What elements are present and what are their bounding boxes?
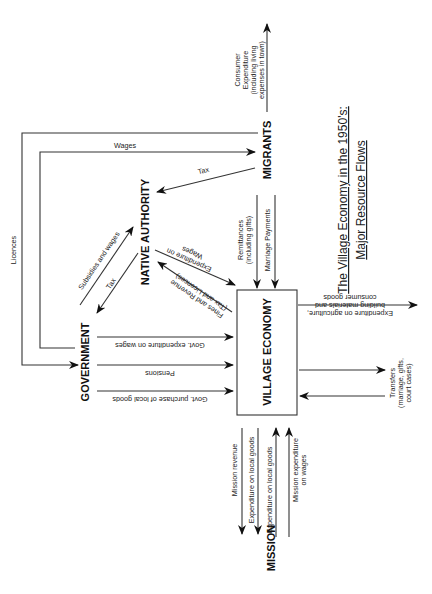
label-gov-purchase-goods: Govt. purchase of local goods [112, 395, 207, 404]
svg-text:on wages: on wages [299, 454, 308, 485]
resource-flow-diagram: The Village Economy in the 1950's: Major… [0, 0, 432, 594]
label-licences: Licences [9, 235, 18, 264]
label-tax-migrants: Tax [197, 165, 210, 177]
title-line-1: The Village Economy in the 1950's: [336, 106, 350, 294]
label-consumer-expenditure: Consumer Expenditure (including living e… [233, 41, 266, 99]
label-marriage-payments: Marriage Payments [263, 208, 272, 271]
svg-text:expenses in town): expenses in town) [257, 41, 266, 99]
label-gov-expenditure-wages: Govt. expenditure on wages [115, 341, 205, 350]
label-transfers: Transfers (marriage, gifts, court cases) [388, 358, 413, 408]
node-government: GOVERNMENT [79, 322, 91, 401]
label-expenditure-agriculture: Expenditure on agriculture, building mat… [307, 293, 393, 318]
node-migrants: MIGRANTS [261, 121, 273, 180]
label-na-expenditure-wages: Expenditure on Wages [165, 239, 216, 274]
label-tax-na: Tax [104, 276, 118, 291]
diagram-title: The Village Economy in the 1950's: Major… [336, 106, 368, 294]
label-remittances: Remittances (including gifts) [236, 216, 253, 264]
label-wages: Wages [114, 141, 137, 150]
svg-text:consumer goods: consumer goods [323, 293, 377, 302]
label-expenditure-local-goods-2: Expenditure on local goods [265, 446, 274, 533]
svg-text:(including gifts): (including gifts) [244, 216, 253, 264]
label-mission-expenditure-wages: Mission expenditure on wages [291, 438, 308, 502]
label-mission-revenue: Mission revenue [230, 444, 239, 496]
label-pensions: Pensions [145, 369, 175, 378]
label-expenditure-local-goods-1: Expenditure on local goods [247, 436, 256, 523]
title-line-2: Major Resource Flows [354, 140, 368, 259]
node-native-authority: NATIVE AUTHORITY [139, 178, 151, 285]
svg-text:court cases): court cases) [404, 363, 413, 402]
node-village-economy: VILLAGE ECONOMY [261, 298, 273, 406]
arrow-subsidies-wages [80, 227, 133, 305]
